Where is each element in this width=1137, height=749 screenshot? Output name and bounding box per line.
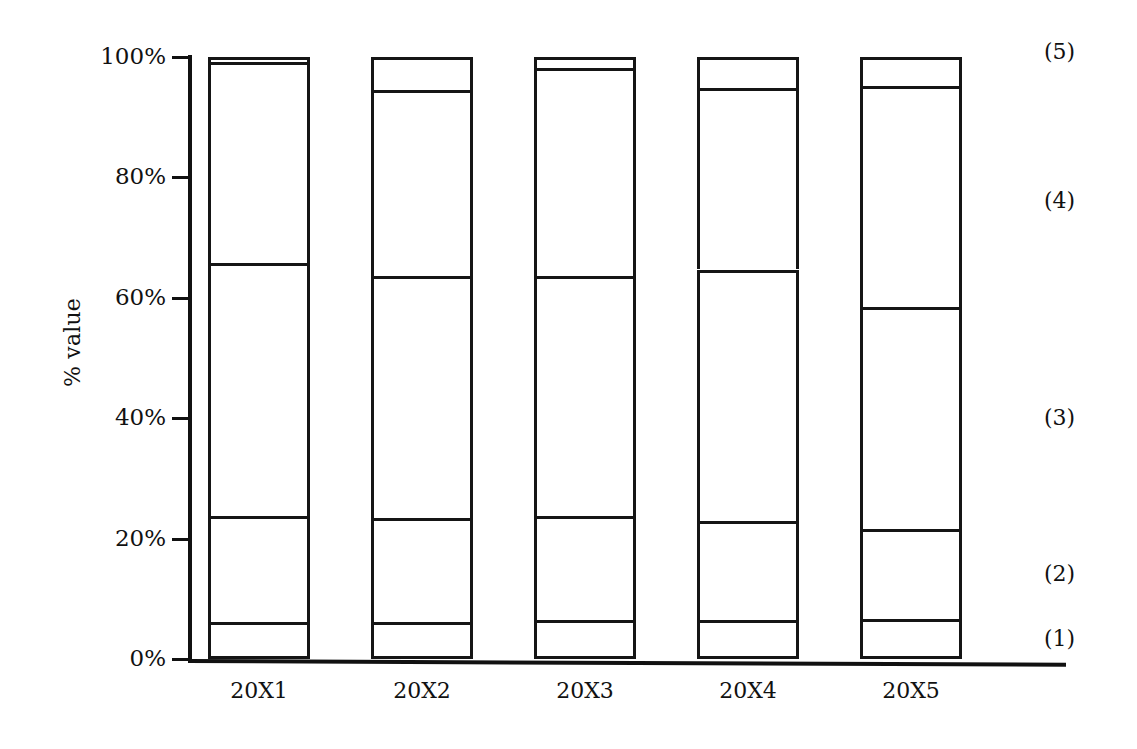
bar-20X1	[208, 57, 310, 659]
plot-area	[0, 0, 1137, 749]
bar-segment-20X3-1	[534, 620, 636, 659]
legend-label-5: (5)	[1044, 39, 1114, 64]
bar-segment-20X1-2	[208, 516, 310, 622]
bar-segment-20X5-5	[860, 57, 962, 86]
bar-segment-20X3-2	[534, 516, 636, 621]
x-axis-label-20X3: 20X3	[505, 678, 665, 703]
bar-20X4	[697, 57, 799, 659]
stacked-bar-chart: % value 100%80%60%40%20%0% 20X120X220X32…	[0, 0, 1137, 749]
bar-segment-20X1-3	[208, 263, 310, 515]
bar-segment-20X5-2	[860, 529, 962, 619]
bar-20X3	[534, 57, 636, 659]
bar-segment-20X4-4	[697, 88, 799, 270]
bar-segment-20X4-3	[697, 270, 799, 521]
bar-segment-20X1-5	[208, 57, 310, 62]
bar-segment-20X2-5	[371, 57, 473, 90]
legend-label-3: (3)	[1044, 405, 1114, 430]
bar-segment-20X5-1	[860, 619, 962, 659]
bar-20X2	[371, 57, 473, 659]
bar-segment-20X3-4	[534, 68, 636, 275]
legend-label-1: (1)	[1044, 626, 1114, 651]
bar-segment-20X2-2	[371, 518, 473, 622]
bar-segment-20X5-3	[860, 307, 962, 529]
bar-segment-20X1-4	[208, 62, 310, 264]
legend-label-2: (2)	[1044, 561, 1114, 586]
legend-label-4: (4)	[1044, 188, 1114, 213]
x-axis-label-20X4: 20X4	[668, 678, 828, 703]
bar-segment-20X2-3	[371, 276, 473, 518]
bar-segment-20X4-1	[697, 620, 799, 659]
bar-segment-20X4-5	[697, 57, 799, 88]
bar-segment-20X1-1	[208, 622, 310, 659]
bar-segment-20X4-2	[697, 521, 799, 621]
bar-segment-20X3-3	[534, 276, 636, 516]
bar-segment-20X3-5	[534, 57, 636, 68]
bar-segment-20X2-4	[371, 90, 473, 276]
bar-segment-20X5-4	[860, 86, 962, 306]
bar-segment-20X2-1	[371, 622, 473, 659]
x-axis-label-20X1: 20X1	[179, 678, 339, 703]
x-axis-label-20X2: 20X2	[342, 678, 502, 703]
x-axis-label-20X5: 20X5	[831, 678, 991, 703]
bar-20X5	[860, 57, 962, 659]
